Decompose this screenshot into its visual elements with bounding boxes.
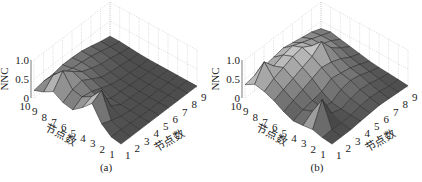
z-tick-label: 0.5 — [226, 73, 240, 85]
y-tick-label: 3 — [301, 137, 307, 149]
y-tick-label: 9 — [32, 105, 38, 117]
z-tick-label: 0 — [235, 92, 241, 104]
y-tick-label: 4 — [80, 132, 86, 144]
x-tick-label: 2 — [135, 142, 141, 154]
x-tick-label: 1 — [125, 149, 131, 161]
y-tick-label: 8 — [253, 111, 259, 123]
x-tick-label: 3 — [144, 135, 150, 147]
z-tick-label: 0 — [24, 92, 30, 104]
panel-caption: (a) — [100, 161, 113, 174]
z-axis-label: NNC — [211, 67, 221, 90]
x-tick-label: 6 — [384, 113, 390, 125]
x-tick-label: 5 — [163, 120, 169, 132]
x-tick-label: 8 — [192, 98, 198, 110]
y-tick-label: 2 — [100, 143, 106, 155]
y-tick-label: 9 — [243, 105, 249, 117]
x-tick-label: 9 — [412, 91, 418, 103]
surface-plot-a-canvas: 1234567891234567891000.51.0NNC节点数节点数(a) — [0, 0, 211, 182]
x-tick-label: 1 — [336, 149, 342, 161]
x-tick-label: 9 — [201, 91, 207, 103]
x-tick-label: 4 — [365, 127, 371, 139]
z-tick-label: 1.0 — [15, 54, 29, 66]
y-tick-label: 1 — [320, 148, 326, 160]
z-tick-label: 0.5 — [15, 73, 29, 85]
x-tick-label: 6 — [173, 113, 179, 125]
z-axis-label: NNC — [0, 67, 10, 90]
y-tick-label: 4 — [291, 132, 297, 144]
surface-plot-a: 1234567891234567891000.51.0NNC节点数节点数(a) — [0, 0, 211, 182]
y-tick-label: 3 — [90, 137, 96, 149]
x-tick-label: 7 — [393, 106, 399, 118]
panel-caption: (b) — [311, 161, 324, 174]
z-tick-label: 1.0 — [226, 54, 240, 66]
y-tick-label: 8 — [42, 111, 48, 123]
y-tick-label: 1 — [109, 148, 115, 160]
x-tick-label: 3 — [355, 135, 361, 147]
x-tick-label: 2 — [346, 142, 352, 154]
x-tick-label: 8 — [403, 98, 409, 110]
surface-plot-b: 1234567891234567891000.51.0NNC节点数节点数(b) — [211, 0, 422, 182]
y-tick-label: 2 — [311, 143, 317, 155]
x-tick-label: 7 — [182, 106, 188, 118]
x-tick-label: 5 — [374, 120, 380, 132]
x-tick-label: 4 — [154, 127, 160, 139]
surface-plot-b-canvas: 1234567891234567891000.51.0NNC节点数节点数(b) — [211, 0, 422, 182]
